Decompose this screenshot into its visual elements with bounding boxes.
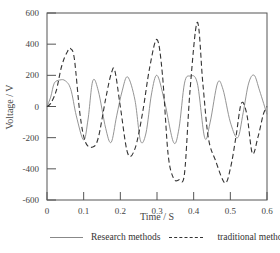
y-tick-label: -200	[23, 133, 40, 143]
x-tick-label: 0.5	[225, 206, 237, 216]
y-tick-label: -600	[23, 195, 40, 205]
x-tick-label: 0	[45, 206, 50, 216]
x-axis-title: Time / S	[140, 211, 174, 222]
legend-item-research-methods: Research methods	[40, 232, 160, 242]
plot-frame	[47, 13, 267, 200]
x-tick-label: 0.4	[188, 206, 200, 216]
y-tick-label: 400	[26, 39, 40, 49]
dashed-line-swatch-icon	[169, 237, 203, 238]
series-traditional-method	[47, 22, 267, 183]
x-tick-label: 0.2	[115, 206, 126, 216]
x-tick-label: 0.1	[78, 206, 89, 216]
solid-line-swatch-icon	[50, 237, 83, 238]
y-axis: 6004002000-200-400-600	[23, 8, 57, 205]
legend-label: traditional method	[217, 232, 280, 242]
chart-canvas: 6004002000-200-400-600 00.10.20.30.40.50…	[0, 0, 280, 225]
plot-border	[47, 13, 267, 200]
legend: Research methods traditional method	[40, 229, 280, 245]
y-tick-label: 200	[26, 70, 40, 80]
x-tick-label: 0.6	[261, 206, 273, 216]
series-research-methods	[47, 75, 267, 144]
y-tick-label: 600	[26, 8, 40, 18]
legend-label: Research methods	[91, 232, 160, 242]
series-layer	[47, 22, 267, 183]
y-tick-label: -400	[23, 164, 40, 174]
y-axis-title: Voltage / V	[4, 84, 15, 130]
legend-item-traditional-method: traditional method	[160, 232, 280, 242]
y-tick-label: 0	[35, 102, 40, 112]
